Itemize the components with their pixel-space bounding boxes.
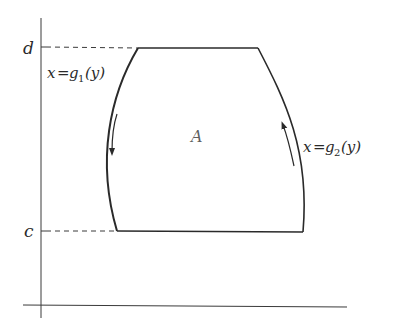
- svg-text:(y): (y): [85, 64, 105, 82]
- label-region-a: A: [189, 127, 203, 146]
- curve-g2: [258, 48, 304, 232]
- label-c: c: [24, 221, 34, 241]
- curve-g1: [107, 48, 138, 231]
- arrow-up-icon: [283, 125, 294, 166]
- svg-text:=: =: [57, 64, 70, 82]
- svg-text:=: =: [313, 138, 326, 156]
- svg-text:x: x: [303, 138, 312, 156]
- region-bottom-edge: [117, 231, 303, 232]
- label-g1: x = g 1 (y): [47, 64, 105, 84]
- label-d: d: [23, 38, 34, 58]
- diagram-canvas: d c A x = g 1 (y) x = g 2 (y): [0, 0, 394, 335]
- svg-text:1: 1: [78, 73, 84, 84]
- svg-text:(y): (y): [341, 138, 361, 156]
- label-g2: x = g 2 (y): [303, 138, 361, 158]
- svg-text:2: 2: [334, 147, 340, 158]
- x-axis: [23, 305, 347, 307]
- dashed-line-d: [46, 47, 138, 48]
- svg-text:x: x: [47, 64, 56, 82]
- arrow-down-icon: [112, 114, 117, 152]
